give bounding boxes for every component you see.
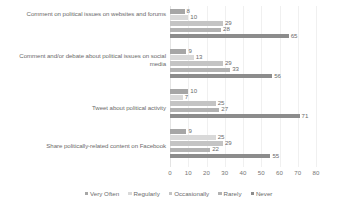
category-label: Share politically-related content on Fac… (4, 142, 166, 150)
bar (170, 61, 223, 66)
x-axis-tick-label: 50 (258, 169, 265, 176)
legend-swatch-icon (251, 192, 254, 195)
bar (170, 148, 210, 153)
legend-label: Regularly (134, 190, 160, 197)
bar (170, 95, 183, 100)
bar-value-label: 33 (232, 66, 239, 72)
bar (170, 108, 219, 113)
legend-item[interactable]: Never (251, 190, 273, 197)
bar-value-label: 10 (190, 88, 197, 94)
x-axis-tick-label: 10 (185, 169, 192, 176)
bar (170, 21, 223, 26)
bar (170, 135, 216, 140)
bar (170, 129, 186, 134)
bar (170, 74, 272, 79)
x-axis-tick-label: 20 (203, 169, 210, 176)
x-axis-tick-label: 80 (313, 169, 320, 176)
legend-swatch-icon (128, 192, 131, 195)
bar-value-label: 71 (302, 113, 309, 119)
bar-value-label: 65 (291, 33, 298, 39)
bar (170, 49, 186, 54)
legend-item[interactable]: Very Often (85, 190, 120, 197)
category-label: Tweet about political activity (4, 104, 166, 112)
bar-value-label: 28 (223, 26, 230, 32)
bar (170, 28, 221, 33)
bar-value-label: 7 (185, 94, 188, 100)
legend-label: Rarely (224, 190, 242, 197)
legend-swatch-icon (169, 192, 172, 195)
grouped-bar-chart: Comment on political issues on websites … (0, 0, 357, 206)
legend-item[interactable]: Regularly (128, 190, 160, 197)
bar-value-label: 22 (212, 146, 219, 152)
legend-label: Never (256, 190, 273, 197)
bar (170, 101, 216, 106)
bar (170, 9, 185, 14)
gridline (316, 6, 317, 167)
bar-value-label: 10 (190, 14, 197, 20)
bar-group: 107252771 (170, 89, 316, 120)
bar-group: 810292865 (170, 9, 316, 40)
bar-value-label: 9 (188, 128, 191, 134)
legend-label: Very Often (90, 190, 119, 197)
plot-area: 810292865913293356107252771925292255 (170, 6, 316, 167)
bar (170, 114, 300, 119)
legend-item[interactable]: Occasionally (169, 190, 209, 197)
bar-value-label: 55 (272, 153, 279, 159)
x-axis-tick-label: 30 (221, 169, 228, 176)
legend-swatch-icon (85, 192, 88, 195)
bar (170, 68, 230, 73)
bar-value-label: 27 (221, 106, 228, 112)
bar-value-label: 56 (274, 73, 281, 79)
legend-label: Occasionally (174, 190, 209, 197)
bar-value-label: 29 (225, 60, 232, 66)
x-axis-tick-label: 70 (294, 169, 301, 176)
x-axis-tick-label: 0 (168, 169, 171, 176)
legend-swatch-icon (218, 192, 221, 195)
x-axis-tick-label: 40 (240, 169, 247, 176)
bar (170, 34, 289, 39)
bar-value-label: 29 (225, 140, 232, 146)
legend-item[interactable]: Rarely (218, 190, 241, 197)
category-label: Comment and/or debate about political is… (4, 52, 166, 67)
bar (170, 154, 270, 159)
chart-legend: Very OftenRegularlyOccasionallyRarelyNev… (0, 190, 357, 197)
bar-value-label: 13 (196, 54, 203, 60)
bar-value-label: 9 (188, 48, 191, 54)
bar-value-label: 25 (218, 134, 225, 140)
category-label: Comment on political issues on websites … (4, 10, 166, 18)
bar (170, 15, 188, 20)
x-axis-tick-label: 60 (276, 169, 283, 176)
bar-group: 925292255 (170, 129, 316, 160)
bar-group: 913293356 (170, 49, 316, 80)
bar (170, 55, 194, 60)
